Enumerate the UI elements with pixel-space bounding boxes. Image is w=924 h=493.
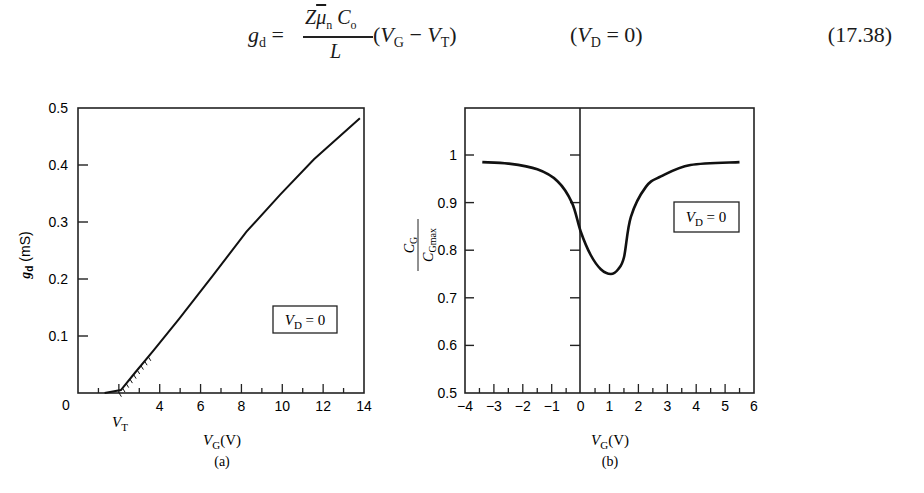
y-tick-label: 0.1	[49, 328, 69, 344]
chart-a-frame	[78, 108, 364, 393]
chart-b-y-axis-label: CG CGmax	[402, 219, 438, 271]
chart-a-caption: (a)	[214, 454, 230, 470]
chart-b-frame	[465, 108, 754, 393]
x-tick-label: −1	[544, 398, 560, 414]
y-tick-label: 1	[449, 147, 457, 163]
chart-b-y-ticks: 0.50.60.70.80.91	[438, 147, 580, 401]
x-tick-label: 12	[315, 398, 331, 414]
x-tick-label: 4	[156, 398, 164, 414]
x-tick-label: −2	[515, 398, 531, 414]
y-tick-label: 0.2	[49, 271, 69, 287]
chart-b-y-label-denominator: CGmax	[421, 228, 438, 262]
chart-b: 0.50.60.70.80.91 −4−3−2−10123456 VG(V) (…	[402, 108, 758, 470]
x-tick-label: 4	[692, 398, 700, 414]
y-tick-label: 0.5	[49, 100, 69, 116]
y-tick-label: 0.8	[438, 242, 458, 258]
chart-a-vt-label: VT	[112, 414, 128, 433]
chart-a: 0.10.20.30.40.5 468101214 0 VT VG(V) (a)…	[17, 100, 372, 470]
x-tick-label: 2	[635, 398, 643, 414]
y-tick-label: 0.5	[438, 385, 458, 401]
chart-b-x-ticks: −4−3−2−10123456	[457, 384, 758, 414]
x-tick-label: 6	[197, 398, 205, 414]
chart-a-x-axis-label: VG(V)	[203, 432, 241, 451]
y-tick-label: 0.9	[438, 195, 458, 211]
x-tick-label: 8	[238, 398, 246, 414]
chart-b-caption: (b)	[602, 454, 619, 470]
y-tick-label: 0.3	[49, 214, 69, 230]
x-tick-label: 3	[663, 398, 671, 414]
chart-a-origin-label: 0	[62, 397, 70, 413]
chart-a-hatch	[119, 357, 151, 397]
x-tick-label: 1	[606, 398, 614, 414]
chart-b-y-label-numerator: CG	[402, 237, 419, 254]
figure-a-conductance-chart: 0.10.20.30.40.5 468101214 0 VT VG(V) (a)…	[0, 0, 924, 493]
chart-b-x-axis-label: VG(V)	[591, 432, 629, 451]
chart-a-x-ticks: 468101214	[98, 384, 372, 414]
x-tick-label: 6	[750, 398, 758, 414]
y-tick-label: 0.4	[49, 157, 69, 173]
x-tick-label: −3	[486, 398, 502, 414]
chart-a-y-axis-label: gd (mS)	[17, 231, 35, 279]
x-tick-label: 0	[577, 398, 585, 414]
y-tick-label: 0.7	[438, 290, 458, 306]
x-tick-label: 14	[356, 398, 372, 414]
x-tick-label: 10	[274, 398, 290, 414]
x-tick-label: 5	[721, 398, 729, 414]
chart-a-curve	[105, 118, 360, 393]
chart-a-y-ticks: 0.10.20.30.40.5	[49, 100, 88, 344]
x-tick-label: −4	[457, 398, 473, 414]
y-tick-label: 0.6	[438, 337, 458, 353]
